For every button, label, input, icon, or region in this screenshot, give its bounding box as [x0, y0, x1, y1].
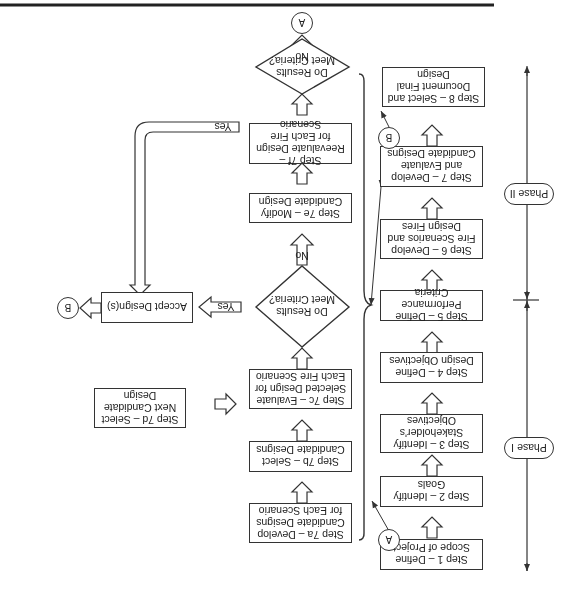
step7c-box: Step 7c – Evaluate Selected Design for E… — [249, 369, 352, 409]
b-to-step8-line — [381, 111, 389, 127]
arrow-step3-step4 — [422, 393, 442, 414]
step2-box: Step 2 – Identify Goals — [380, 476, 483, 507]
arrow-step6-step7 — [422, 198, 442, 219]
arrow-accept-b — [80, 298, 101, 318]
connector-b-start: B — [57, 297, 79, 319]
step7-box: Step 7 – Develop and Evaluate Candidate … — [380, 146, 483, 187]
accept-designs-box: Accept Design(s) — [101, 292, 193, 323]
yes2-bent-arrow — [130, 122, 239, 295]
arrow-7c-decision1 — [292, 348, 312, 369]
arrow-7b-7c — [292, 420, 312, 441]
no2-label: No — [292, 50, 312, 64]
step7f-box: Step 7f – Reevaluate Design for Each Fir… — [249, 123, 352, 164]
arrow-7f-decision2 — [292, 94, 312, 115]
connector-b-end: B — [378, 127, 400, 149]
arrow-7a-7b — [292, 482, 312, 503]
step7-bracket — [359, 74, 371, 540]
arrow-7d-7c — [215, 394, 236, 414]
step6-box: Step 6 – Develop Fire Scenarios and Desi… — [380, 219, 483, 259]
yes1-label: Yes — [213, 301, 239, 313]
decision1-label: Do Results Meet Criteria? — [267, 286, 337, 326]
connector-a-end: A — [291, 12, 313, 34]
connector-a-start: A — [378, 529, 400, 551]
step3-box: Step 3 – Identify Stakeholder's Objectiv… — [380, 414, 483, 453]
phase1-label: Phase I — [504, 437, 554, 459]
sub-flow-arrows — [80, 35, 313, 503]
step7e-box: Step 7e – Modify Candidate Design — [249, 193, 352, 223]
step4-box: Step 4 – Define Design Objectives — [380, 352, 483, 383]
phase2-label: Phase II — [504, 183, 554, 205]
arrow-step7-step8 — [422, 125, 442, 146]
flowchart-rotated: Phase I Phase II Step 1 – Define Scope o… — [0, 0, 569, 611]
arrow-step1-step2 — [422, 517, 442, 538]
step7d-box: Step 7d – Select Next Candidate Design — [94, 388, 186, 428]
step5-box: Step 5 – Define Performance Criteria — [380, 290, 483, 321]
step8-box: Step 8 – Select and Document Final Desig… — [382, 67, 485, 107]
arrow-step4-step5 — [422, 332, 442, 353]
arrow-step2-step3 — [422, 455, 442, 476]
step7a-box: Step 7a – Develop Candidate Designs for … — [249, 503, 352, 543]
yes2-label: Yes — [209, 121, 237, 133]
no1-label: No — [292, 249, 312, 263]
step7b-box: Step 7b – Select Candidate Designs — [249, 441, 352, 472]
